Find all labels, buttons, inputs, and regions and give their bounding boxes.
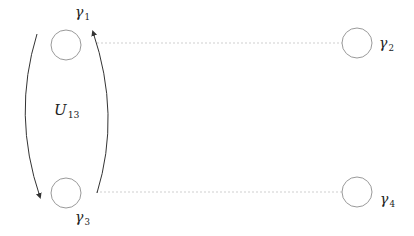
operator-symbol: U	[54, 101, 67, 119]
gamma3-subscript: 3	[84, 217, 90, 227]
left-arc-arrow	[25, 34, 40, 197]
gamma1-label: γ1	[75, 5, 90, 22]
node-gamma4-circle	[342, 177, 372, 207]
operator-subscript: 13	[68, 109, 80, 120]
gamma3-symbol: γ	[75, 209, 83, 225]
gamma3-label: γ3	[75, 210, 90, 227]
gamma4-subscript: 4	[389, 199, 395, 209]
node-gamma2-circle	[342, 28, 372, 58]
gamma1-symbol: γ	[75, 4, 83, 20]
operator-label: U13	[54, 103, 80, 120]
node-gamma3-circle	[51, 178, 81, 208]
gamma2-subscript: 2	[388, 43, 394, 53]
gamma4-label: γ4	[380, 192, 395, 209]
node-gamma1-circle	[51, 30, 81, 60]
gamma4-symbol: γ	[380, 191, 388, 207]
gamma2-label: γ2	[379, 36, 394, 53]
right-arc-arrow	[93, 32, 108, 193]
gamma1-subscript: 1	[84, 12, 90, 22]
gamma2-symbol: γ	[379, 35, 387, 51]
